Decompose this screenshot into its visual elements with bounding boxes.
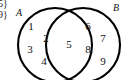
venn-element: 6 [85, 21, 91, 32]
set-b-label: B [113, 3, 119, 13]
set-a-label: A [16, 8, 22, 18]
venn-element: 1 [28, 21, 34, 32]
cutoff-text-line-2: 9} [0, 10, 8, 20]
venn-element: 4 [41, 56, 47, 67]
venn-element: 3 [27, 44, 33, 55]
venn-element: 9 [100, 56, 106, 67]
venn-diagram-figure: 5} 9} A B 1 2 3 4 5 6 7 8 9 [0, 0, 126, 80]
venn-element: 2 [43, 33, 49, 44]
cutoff-text-line-1: 5} [0, 0, 8, 9]
venn-element: 8 [85, 44, 91, 55]
venn-element: 7 [100, 33, 106, 44]
venn-element: 5 [66, 39, 72, 50]
